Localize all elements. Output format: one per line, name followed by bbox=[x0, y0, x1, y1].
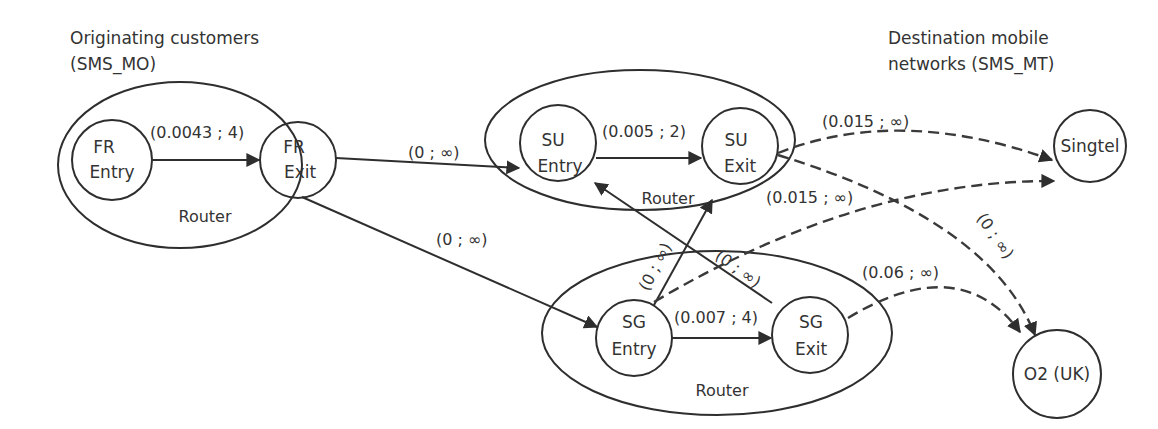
su-entry-node[interactable]: SU Entry bbox=[520, 105, 596, 181]
su-entry-line2: Entry bbox=[537, 156, 582, 176]
fr-entry-line1: FR bbox=[93, 137, 115, 157]
origin-heading: Originating customers (SMS_MO) bbox=[70, 28, 259, 75]
edge-label: (0.005 ; 2) bbox=[602, 122, 686, 141]
edge-label: (0.0043 ; 4) bbox=[150, 123, 244, 142]
su-exit-node[interactable]: SU Exit bbox=[702, 108, 778, 184]
destination-heading: Destination mobile networks (SMS_MT) bbox=[888, 28, 1054, 75]
edge-label: (0.015 ; ∞) bbox=[822, 112, 909, 131]
sg-exit-line2: Exit bbox=[795, 339, 828, 359]
su-entry-line1: SU bbox=[541, 130, 564, 150]
sg-router-label: Router bbox=[695, 381, 748, 400]
o2-uk-label: O2 (UK) bbox=[1024, 364, 1090, 384]
o2-uk-node[interactable]: O2 (UK) bbox=[1013, 330, 1101, 418]
edge-label: (0 ; ∞) bbox=[973, 209, 1018, 262]
edge-label: (0 ; ∞) bbox=[635, 239, 676, 293]
edge-su-exit-singtel: (0.015 ; ∞) bbox=[778, 112, 1052, 160]
origin-heading-line1: Originating customers bbox=[70, 28, 259, 48]
sg-entry-node[interactable]: SG Entry bbox=[596, 300, 672, 376]
singtel-label: Singtel bbox=[1061, 136, 1120, 156]
edge-label: (0.06 ; ∞) bbox=[862, 263, 939, 282]
fr-router: Router FR Entry FR Exit bbox=[58, 82, 336, 248]
su-exit-line1: SU bbox=[724, 130, 747, 150]
sg-entry-line2: Entry bbox=[611, 339, 656, 359]
edge-label: (0.015 ; ∞) bbox=[766, 188, 853, 207]
sg-exit-node[interactable]: SG Exit bbox=[772, 297, 848, 373]
fr-router-label: Router bbox=[178, 207, 231, 226]
fr-entry-node[interactable]: FR Entry bbox=[72, 120, 152, 200]
edge-fr-exit-sg-entry: (0 ; ∞) bbox=[302, 197, 597, 327]
edge-su-entry-su-exit: (0.005 ; 2) bbox=[596, 122, 701, 158]
su-router-label: Router bbox=[641, 189, 694, 208]
fr-exit-line2: Exit bbox=[284, 162, 317, 182]
edge-label: (0 ; ∞) bbox=[408, 143, 460, 162]
edge-fr-exit-su-entry: (0 ; ∞) bbox=[336, 143, 519, 168]
origin-heading-line2: (SMS_MO) bbox=[70, 54, 156, 75]
singtel-node[interactable]: Singtel bbox=[1054, 110, 1126, 182]
su-exit-line2: Exit bbox=[724, 156, 757, 176]
edge-fr-entry-fr-exit: (0.0043 ; 4) bbox=[150, 123, 259, 160]
fr-entry-line2: Entry bbox=[89, 162, 134, 182]
network-diagram: Originating customers (SMS_MO) Destinati… bbox=[0, 0, 1158, 429]
edge-sg-entry-su-exit: (0 ; ∞) bbox=[635, 200, 712, 305]
destination-heading-line1: Destination mobile bbox=[888, 28, 1049, 48]
sg-exit-line1: SG bbox=[799, 312, 823, 332]
fr-exit-line1: FR bbox=[283, 137, 305, 157]
edge-label: (0 ; ∞) bbox=[436, 230, 488, 249]
edge-label: (0.007 ; 4) bbox=[674, 308, 758, 327]
sg-router: Router SG Entry SG Exit bbox=[542, 251, 892, 415]
edge-sg-entry-sg-exit: (0.007 ; 4) bbox=[672, 308, 771, 338]
sg-entry-line1: SG bbox=[622, 312, 646, 332]
destination-heading-line2: networks (SMS_MT) bbox=[888, 54, 1054, 75]
